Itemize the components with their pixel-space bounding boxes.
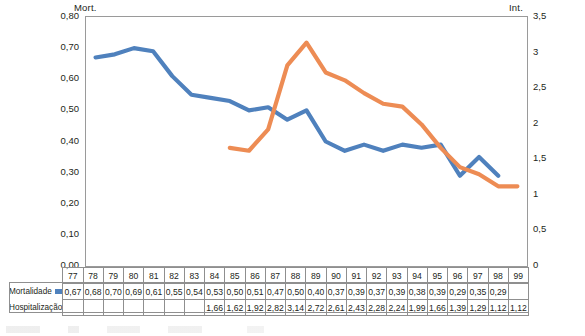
plot-area <box>85 16 528 267</box>
table-cell: 0,55 <box>164 284 184 300</box>
category-header-89: 89 <box>306 268 326 284</box>
table-cell: 2,24 <box>387 300 407 316</box>
right-tick-3: 2 <box>533 118 573 128</box>
table-cell: 0,39 <box>387 284 407 300</box>
table-cell <box>508 284 528 300</box>
category-header-79: 79 <box>103 268 123 284</box>
left-tick-6: 0,20 <box>39 198 79 208</box>
table-cell: 1,12 <box>488 300 508 316</box>
category-header-77: 77 <box>63 268 83 284</box>
table-cell: 1,66 <box>205 300 225 316</box>
table-row: Hospitalização1,661,621,922,823,142,722,… <box>9 300 529 316</box>
category-header-90: 90 <box>326 268 346 284</box>
table-cell: 2,61 <box>326 300 346 316</box>
right-tick-7: 0 <box>533 260 573 270</box>
legend-item-hospitalizao: Hospitalização <box>9 300 63 316</box>
left-tick-0: 0,80 <box>39 11 79 21</box>
chart-figure: Mort. Int. 0,800,700,600,500,400,300,200… <box>0 0 585 336</box>
page-edge-artifact <box>6 326 286 333</box>
table-cell: 0,35 <box>468 284 488 300</box>
category-header-95: 95 <box>427 268 447 284</box>
table-cell: 3,14 <box>286 300 306 316</box>
category-header-87: 87 <box>265 268 285 284</box>
left-tick-4: 0,40 <box>39 136 79 146</box>
table-cell: 0,29 <box>448 284 468 300</box>
category-header-85: 85 <box>225 268 245 284</box>
table-row: Mortalidade0,670,680,700,690,610,550,540… <box>9 284 529 300</box>
right-tick-6: 0,5 <box>533 224 573 234</box>
table-cell: 0,70 <box>103 284 123 300</box>
series-line-hospitalizao <box>230 43 518 187</box>
table-cell: 1,62 <box>225 300 245 316</box>
right-axis-caption: Int. <box>509 2 523 13</box>
table-cell: 2,28 <box>367 300 387 316</box>
left-tick-7: 0,10 <box>39 229 79 239</box>
table-cell: 0,68 <box>83 284 103 300</box>
table-cell: 0,47 <box>265 284 285 300</box>
series-line-mortalidade <box>96 48 499 176</box>
table-cell: 1,39 <box>448 300 468 316</box>
right-tick-2: 2,5 <box>533 82 573 92</box>
right-tick-5: 1 <box>533 189 573 199</box>
category-header-86: 86 <box>245 268 265 284</box>
table-header-row: 7778798081828384858687888990919293949596… <box>9 268 529 284</box>
table-cell: 1,92 <box>245 300 265 316</box>
category-header-82: 82 <box>164 268 184 284</box>
category-header-93: 93 <box>387 268 407 284</box>
category-header-96: 96 <box>448 268 468 284</box>
table-cell: 0,39 <box>427 284 447 300</box>
category-header-88: 88 <box>286 268 306 284</box>
right-tick-1: 3 <box>533 47 573 57</box>
legend-item-mortalidade: Mortalidade <box>9 284 63 300</box>
legend-label: Mortalidade <box>9 287 52 296</box>
table-cell <box>124 300 144 316</box>
table-cell: 0,51 <box>245 284 265 300</box>
category-header-83: 83 <box>184 268 204 284</box>
category-header-97: 97 <box>468 268 488 284</box>
category-header-92: 92 <box>367 268 387 284</box>
category-header-94: 94 <box>407 268 427 284</box>
table-cell: 1,66 <box>427 300 447 316</box>
category-header-78: 78 <box>83 268 103 284</box>
table-cell: 2,82 <box>265 300 285 316</box>
category-header-84: 84 <box>205 268 225 284</box>
left-tick-5: 0,30 <box>39 167 79 177</box>
table-cell: 0,53 <box>205 284 225 300</box>
table-cell: 1,12 <box>508 300 528 316</box>
category-header-80: 80 <box>124 268 144 284</box>
table-corner-blank <box>9 268 63 284</box>
table-cell <box>63 300 83 316</box>
table-cell: 1,99 <box>407 300 427 316</box>
table-cell: 0,29 <box>488 284 508 300</box>
left-tick-1: 0,70 <box>39 42 79 52</box>
table-cell <box>83 300 103 316</box>
legend-swatch-icon <box>55 289 62 294</box>
table-cell: 2,72 <box>306 300 326 316</box>
legend-label: Hospitalização <box>9 303 62 312</box>
category-header-91: 91 <box>346 268 366 284</box>
table-cell: 1,29 <box>468 300 488 316</box>
table-cell <box>144 300 164 316</box>
table-cell: 0,54 <box>184 284 204 300</box>
table-cell: 0,67 <box>63 284 83 300</box>
category-header-98: 98 <box>488 268 508 284</box>
table-cell: 0,38 <box>407 284 427 300</box>
table-cell: 0,50 <box>286 284 306 300</box>
table-cell <box>184 300 204 316</box>
category-header-81: 81 <box>144 268 164 284</box>
table-cell: 2,43 <box>346 300 366 316</box>
right-tick-0: 3,5 <box>533 11 573 21</box>
table-cell <box>103 300 123 316</box>
left-tick-3: 0,50 <box>39 104 79 114</box>
chart-data-table: 7778798081828384858687888990919293949596… <box>9 267 529 316</box>
table-cell: 0,37 <box>326 284 346 300</box>
table-cell: 0,61 <box>144 284 164 300</box>
right-tick-4: 1,5 <box>533 153 573 163</box>
category-header-99: 99 <box>508 268 528 284</box>
plot-lines <box>86 17 527 266</box>
table-cell: 0,39 <box>346 284 366 300</box>
table-cell: 0,37 <box>367 284 387 300</box>
table-cell: 0,50 <box>225 284 245 300</box>
table-cell <box>164 300 184 316</box>
table-cell: 0,69 <box>124 284 144 300</box>
